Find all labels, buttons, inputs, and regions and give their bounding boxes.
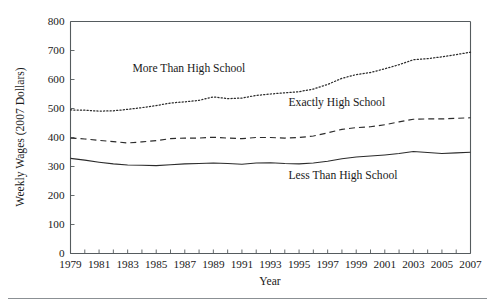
y-tick-label: 300 xyxy=(48,160,65,172)
series-annotation-label: Less Than High School xyxy=(289,169,398,182)
series-line-dotted xyxy=(71,52,471,111)
chart-figure: 0100200300400500600700800 19791981198319… xyxy=(0,0,495,308)
footer-rule xyxy=(8,298,487,299)
x-tick-label: 1985 xyxy=(145,258,168,270)
x-tick-label: 2001 xyxy=(374,258,396,270)
y-tick-label: 800 xyxy=(48,15,65,27)
x-tick-label: 1995 xyxy=(288,258,311,270)
y-axis-tick-labels: 0100200300400500600700800 xyxy=(48,15,65,259)
series-inline-labels: More Than High SchoolExactly High School… xyxy=(133,62,398,181)
x-tick-label: 1981 xyxy=(88,258,110,270)
y-tick-label: 400 xyxy=(48,131,65,143)
x-tick-label: 1997 xyxy=(316,258,339,270)
weekly-wages-line-chart: 0100200300400500600700800 19791981198319… xyxy=(0,0,495,308)
x-axis-title: Year xyxy=(259,275,281,288)
x-tick-label: 1991 xyxy=(231,258,253,270)
series-line-dashed xyxy=(71,118,471,143)
x-axis-tick-labels: 1979198119831985198719891991199319951997… xyxy=(59,258,482,270)
series-annotation-label: More Than High School xyxy=(133,62,246,75)
x-tick-label: 1987 xyxy=(174,258,197,270)
x-tick-label: 2007 xyxy=(459,258,482,270)
x-tick-label: 1979 xyxy=(59,258,82,270)
x-tick-label: 1983 xyxy=(116,258,139,270)
y-tick-label: 600 xyxy=(48,73,65,85)
x-tick-label: 1993 xyxy=(259,258,282,270)
y-tick-label: 100 xyxy=(48,218,65,230)
x-tick-label: 2003 xyxy=(402,258,425,270)
data-series-group xyxy=(71,52,471,165)
x-tick-label: 2005 xyxy=(431,258,454,270)
y-tick-label: 200 xyxy=(48,189,65,201)
y-tick-label: 500 xyxy=(48,102,65,114)
series-annotation-label: Exactly High School xyxy=(289,96,386,109)
x-tick-label: 1989 xyxy=(202,258,225,270)
x-tick-label: 1999 xyxy=(345,258,368,270)
y-tick-label: 700 xyxy=(48,44,65,56)
y-axis-title: Weekly Wages (2007 Dollars) xyxy=(14,67,27,206)
series-line-solid xyxy=(71,151,471,165)
